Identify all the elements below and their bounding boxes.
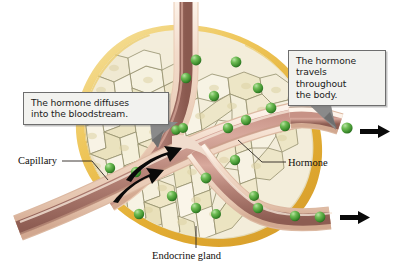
callout-diffuses-line2: into the bloodstream. — [31, 108, 162, 119]
label-endocrine-gland: Endocrine gland — [152, 250, 221, 261]
bloodflow-exit-arrows — [340, 125, 390, 224]
label-capillary: Capillary — [18, 155, 57, 166]
endocrine-gland-figure: The hormone diffuses into the bloodstrea… — [0, 0, 398, 274]
callout-diffuses-line1: The hormone diffuses — [31, 97, 162, 108]
callout-travels-line1: The hormone — [296, 55, 379, 66]
label-hormone: Hormone — [288, 157, 328, 168]
diagram-artwork — [0, 0, 398, 274]
callout-hormone-travels: The hormone travels throughout the body. — [288, 50, 386, 106]
callout-travels-line3: throughout — [296, 78, 379, 89]
callout-travels-line2: travels — [296, 66, 379, 77]
callout-travels-line4: the body. — [296, 89, 379, 100]
callout-hormone-diffuses: The hormone diffuses into the bloodstrea… — [23, 92, 169, 125]
